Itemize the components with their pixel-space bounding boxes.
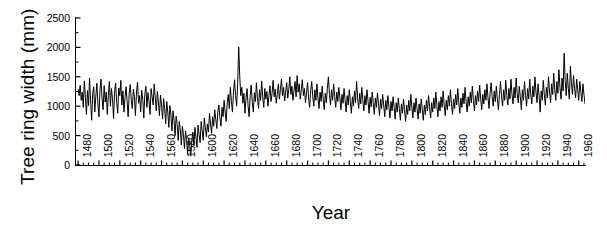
x-tick-label: 1700 [312, 134, 322, 168]
x-tick-label: 1900 [520, 134, 530, 168]
x-tick-label: 1480 [82, 134, 92, 168]
x-tick-label: 1940 [562, 134, 572, 168]
x-tick-label: 1920 [541, 134, 551, 168]
x-tick-label: 1660 [270, 134, 280, 168]
x-tick-label: 1880 [499, 134, 509, 168]
x-tick-label: 1740 [353, 134, 363, 168]
x-tick-label: 1500 [103, 134, 113, 168]
x-tick-label: 1800 [416, 134, 426, 168]
x-tick-label: 1820 [437, 134, 447, 168]
x-tick-label: 1600 [207, 134, 217, 168]
x-tick-label: 1720 [332, 134, 342, 168]
x-tick-label: 1640 [249, 134, 259, 168]
x-tick-label: 1680 [291, 134, 301, 168]
tree-ring-width-chart: Tree ring width (mm) 0500100015002000250… [0, 0, 607, 231]
x-axis-tick-labels: 1480150015201540156015801600162016401660… [0, 0, 607, 231]
x-tick-label: 1580 [186, 134, 196, 168]
x-tick-label: 1960 [583, 134, 593, 168]
x-tick-label: 1860 [478, 134, 488, 168]
x-tick-label: 1540 [145, 134, 155, 168]
x-tick-label: 1760 [374, 134, 384, 168]
x-tick-label: 1560 [166, 134, 176, 168]
x-tick-label: 1620 [228, 134, 238, 168]
x-tick-label: 1780 [395, 134, 405, 168]
x-tick-label: 1520 [124, 134, 134, 168]
x-axis-title: Year [76, 202, 586, 224]
x-tick-label: 1840 [458, 134, 468, 168]
